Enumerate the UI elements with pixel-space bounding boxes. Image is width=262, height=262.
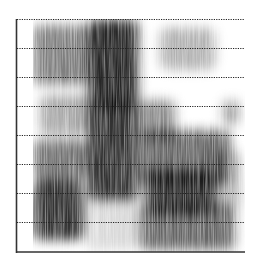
vertical-streaks [33, 19, 245, 252]
spectrogram-chart [0, 0, 262, 262]
